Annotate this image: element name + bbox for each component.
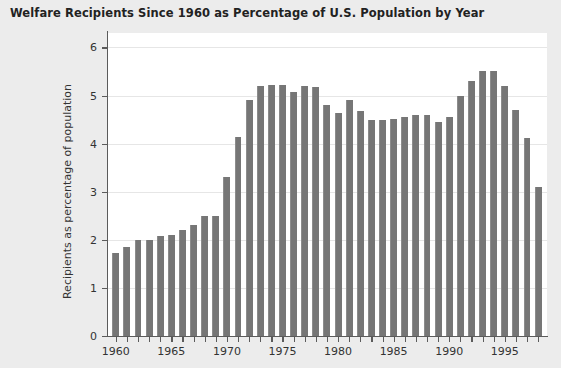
y-tick-1	[102, 288, 107, 289]
bar-1966	[179, 230, 186, 336]
x-tick-1960	[116, 337, 117, 342]
x-tick-1990	[449, 337, 450, 342]
y-axis-title: Recipients as percentage of population	[61, 67, 74, 317]
x-tick-1979	[327, 337, 328, 342]
x-tick-1976	[294, 337, 295, 342]
x-tick-1971	[238, 337, 239, 342]
x-tick-1996	[516, 337, 517, 342]
x-tick-label-1960: 1960	[102, 345, 130, 358]
bar-1973	[257, 86, 264, 336]
x-tick-1970	[227, 337, 228, 342]
bar-1967	[190, 225, 197, 336]
x-tick-1997	[527, 337, 528, 342]
bar-1971	[235, 137, 242, 336]
x-tick-1967	[194, 337, 195, 342]
x-tick-label-1980: 1980	[324, 345, 352, 358]
x-tick-1978	[316, 337, 317, 342]
bar-1969	[212, 216, 219, 336]
bar-1972	[246, 100, 253, 336]
bar-1988	[424, 115, 431, 336]
bar-1978	[312, 87, 319, 336]
y-axis-title-holder: Recipients as percentage of population	[46, 0, 47, 368]
x-tick-label-1970: 1970	[213, 345, 241, 358]
x-tick-1983	[371, 337, 372, 342]
x-tick-1986	[405, 337, 406, 342]
x-tick-1998	[538, 337, 539, 342]
y-tick-3	[102, 192, 107, 193]
bar-1996	[512, 110, 519, 336]
bar-1989	[435, 122, 442, 336]
x-tick-1995	[505, 337, 506, 342]
bar-1993	[479, 71, 486, 336]
bar-1968	[201, 216, 208, 336]
x-tick-1993	[483, 337, 484, 342]
x-tick-1964	[160, 337, 161, 342]
bar-1981	[346, 100, 353, 336]
x-tick-1988	[427, 337, 428, 342]
bar-1960	[112, 253, 119, 336]
x-tick-1992	[471, 337, 472, 342]
bar-1961	[123, 247, 130, 336]
x-tick-1987	[416, 337, 417, 342]
y-tick-6	[102, 47, 107, 48]
bars-container	[108, 33, 547, 336]
y-tick-4	[102, 144, 107, 145]
x-tick-1981	[349, 337, 350, 342]
bar-1995	[501, 86, 508, 336]
chart-figure: Welfare Recipients Since 1960 as Percent…	[0, 0, 561, 368]
y-tick-label-0: 0	[57, 330, 97, 343]
x-tick-1985	[394, 337, 395, 342]
x-tick-1989	[438, 337, 439, 342]
x-tick-1962	[138, 337, 139, 342]
bar-1964	[157, 236, 164, 336]
bar-1997	[524, 138, 531, 336]
x-tick-1969	[216, 337, 217, 342]
bar-1991	[457, 96, 464, 336]
y-tick-2	[102, 240, 107, 241]
x-tick-label-1995: 1995	[491, 345, 519, 358]
bar-1982	[357, 111, 364, 336]
bar-1986	[401, 117, 408, 336]
bar-1962	[135, 240, 142, 336]
x-tick-1973	[260, 337, 261, 342]
bar-1990	[446, 117, 453, 336]
bar-1992	[468, 81, 475, 336]
x-tick-1966	[182, 337, 183, 342]
x-tick-1961	[127, 337, 128, 342]
x-tick-1975	[282, 337, 283, 342]
y-tick-0	[102, 336, 107, 337]
x-tick-label-1975: 1975	[268, 345, 296, 358]
x-tick-1974	[271, 337, 272, 342]
y-axis-spine	[107, 31, 108, 337]
bar-1980	[335, 113, 342, 336]
x-tick-label-1965: 1965	[157, 345, 185, 358]
bar-1975	[279, 85, 286, 336]
bar-1985	[390, 119, 397, 336]
x-tick-1965	[171, 337, 172, 342]
bar-1998	[535, 187, 542, 336]
x-tick-1980	[338, 337, 339, 342]
y-tick-5	[102, 96, 107, 97]
bar-1987	[412, 115, 419, 336]
x-tick-label-1990: 1990	[435, 345, 463, 358]
bar-1963	[146, 240, 153, 336]
x-tick-1977	[305, 337, 306, 342]
bar-1983	[368, 120, 375, 336]
bar-1965	[168, 235, 175, 336]
y-axis-labels: 0123456	[52, 0, 97, 368]
x-tick-1994	[494, 337, 495, 342]
bar-1979	[323, 105, 330, 336]
bar-1976	[290, 92, 297, 336]
x-tick-1963	[149, 337, 150, 342]
x-tick-1972	[249, 337, 250, 342]
x-tick-1984	[383, 337, 384, 342]
bar-1974	[268, 85, 275, 336]
x-tick-label-1985: 1985	[380, 345, 408, 358]
bar-1994	[490, 71, 497, 336]
bar-1984	[379, 120, 386, 336]
x-tick-1968	[205, 337, 206, 342]
bar-1977	[301, 86, 308, 336]
x-tick-1991	[460, 337, 461, 342]
y-tick-label-6: 6	[57, 41, 97, 54]
bar-1970	[223, 177, 230, 336]
